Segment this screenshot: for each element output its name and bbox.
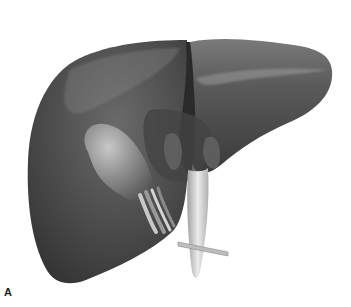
liver-illustration <box>0 0 351 307</box>
figure: A <box>0 0 351 307</box>
round-ligament <box>187 168 208 278</box>
panel-label: A <box>4 286 12 298</box>
